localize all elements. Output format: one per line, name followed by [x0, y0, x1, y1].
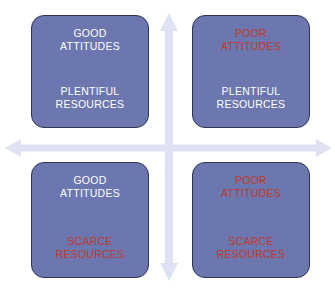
vertical-axis-arrow-icon: [155, 13, 183, 281]
quadrant-bottom-right-resources-label: SCARCE RESOURCES: [217, 235, 286, 261]
quadrant-top-left-resources-label: PLENTIFUL RESOURCES: [56, 85, 125, 111]
quadrant-bottom-left-attitudes-label: GOOD ATTITUDES: [60, 174, 120, 200]
quadrant-matrix-diagram: GOOD ATTITUDES PLENTIFUL RESOURCES POOR …: [0, 0, 335, 291]
quadrant-top-left-attitudes-label: GOOD ATTITUDES: [60, 27, 120, 53]
quadrant-bottom-right[interactable]: POOR ATTITUDES SCARCE RESOURCES: [192, 162, 310, 278]
quadrant-bottom-right-attitudes-label: POOR ATTITUDES: [221, 174, 281, 200]
quadrant-top-right-resources-label: PLENTIFUL RESOURCES: [217, 85, 286, 111]
quadrant-top-left[interactable]: GOOD ATTITUDES PLENTIFUL RESOURCES: [31, 15, 149, 128]
quadrant-top-right-attitudes-label: POOR ATTITUDES: [221, 27, 281, 53]
horizontal-axis-arrow-icon: [5, 134, 332, 162]
quadrant-bottom-left-resources-label: SCARCE RESOURCES: [56, 235, 125, 261]
quadrant-bottom-left[interactable]: GOOD ATTITUDES SCARCE RESOURCES: [31, 162, 149, 278]
quadrant-top-right[interactable]: POOR ATTITUDES PLENTIFUL RESOURCES: [192, 15, 310, 128]
